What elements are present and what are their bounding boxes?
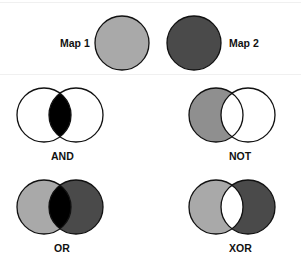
map2-circle xyxy=(167,16,221,70)
and-label: AND xyxy=(51,150,74,162)
and-venn xyxy=(17,88,103,142)
map2-label: Map 2 xyxy=(229,37,259,49)
not-label: NOT xyxy=(229,150,251,162)
map1-circle xyxy=(95,16,149,70)
not-venn xyxy=(189,88,275,142)
or-venn xyxy=(17,180,103,234)
xor-venn xyxy=(189,180,275,234)
map1-label: Map 1 xyxy=(60,37,90,49)
xor-label: XOR xyxy=(229,242,252,254)
or-label: OR xyxy=(54,242,70,254)
